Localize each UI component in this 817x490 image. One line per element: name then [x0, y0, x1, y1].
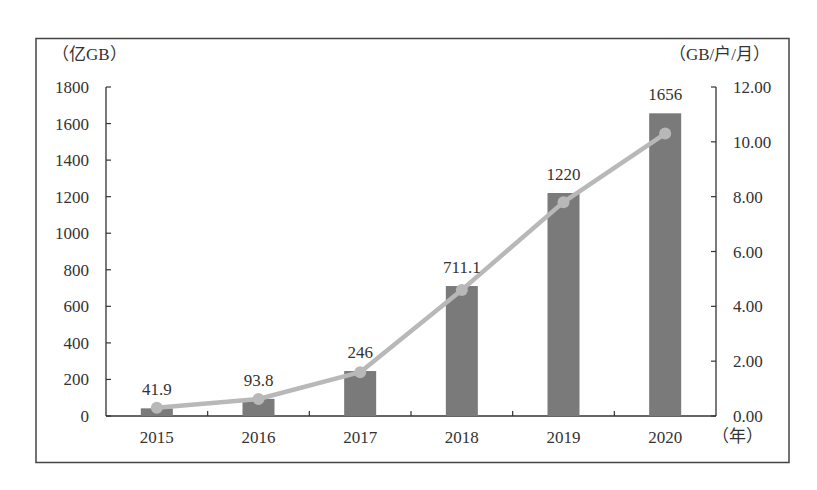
x-tick-label: 2017 — [343, 428, 378, 447]
left-tick-label: 400 — [64, 334, 90, 353]
left-tick-label: 600 — [64, 297, 90, 316]
right-tick-label: 10.00 — [733, 133, 771, 152]
bar-value-label: 1220 — [547, 165, 581, 184]
right-tick-label: 12.00 — [733, 78, 771, 97]
left-tick-label: 1800 — [55, 78, 89, 97]
bar — [548, 193, 580, 416]
right-tick-label: 0.00 — [733, 407, 763, 426]
line-series — [151, 128, 671, 414]
right-tick-label: 2.00 — [733, 352, 763, 371]
left-tick-label: 200 — [64, 370, 90, 389]
left-axis-unit-label: （亿GB） — [52, 45, 127, 64]
bar-value-label: 711.1 — [443, 258, 481, 277]
left-tick-label: 1200 — [55, 188, 89, 207]
line-point — [456, 284, 468, 296]
bar-series — [141, 113, 681, 416]
bar — [649, 113, 681, 416]
line-point — [151, 402, 163, 414]
left-tick-label: 800 — [64, 261, 90, 280]
line-point — [558, 196, 570, 208]
bar — [446, 286, 478, 416]
x-axis: 201520162017201820192020 — [106, 411, 716, 447]
left-tick-label: 1400 — [55, 151, 89, 170]
bar-value-label: 93.8 — [244, 371, 274, 390]
right-tick-label: 4.00 — [733, 297, 763, 316]
right-tick-label: 6.00 — [733, 243, 763, 262]
bar-value-label: 246 — [347, 343, 373, 362]
line-point — [659, 128, 671, 140]
left-tick-label: 1600 — [55, 115, 89, 134]
line-point — [354, 366, 366, 378]
right-axis-unit-label: （GB/户/月） — [669, 45, 770, 64]
combo-chart: 020040060080010001200140016001800 0.002.… — [0, 0, 817, 490]
left-tick-label: 1000 — [55, 224, 89, 243]
x-axis-unit-label: （年） — [712, 427, 763, 446]
left-tick-label: 0 — [81, 407, 90, 426]
x-tick-label: 2015 — [140, 428, 174, 447]
x-tick-label: 2019 — [547, 428, 581, 447]
x-tick-label: 2020 — [648, 428, 682, 447]
bar-value-label: 1656 — [648, 85, 682, 104]
bar-data-labels: 41.993.8246711.112201656 — [142, 85, 682, 399]
x-tick-label: 2018 — [445, 428, 479, 447]
right-y-axis: 0.002.004.006.008.0010.0012.00 — [711, 78, 771, 426]
line-point — [253, 393, 265, 405]
x-tick-label: 2016 — [242, 428, 276, 447]
right-tick-label: 8.00 — [733, 188, 763, 207]
left-y-axis: 020040060080010001200140016001800 — [55, 78, 111, 426]
bar-value-label: 41.9 — [142, 380, 172, 399]
